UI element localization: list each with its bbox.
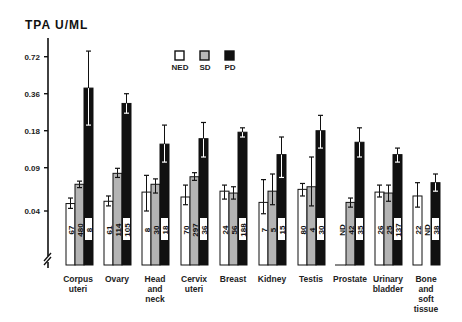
bar-groups: 6748086111410583018702973624561887515804…	[66, 51, 441, 265]
n-count-label: 70	[182, 225, 191, 234]
svg-text:Testis: Testis	[299, 274, 323, 284]
bar-group: 83018	[142, 125, 170, 265]
n-count-label: 7	[260, 227, 269, 232]
bar-pd	[122, 103, 131, 265]
legend: NEDSDPD	[172, 51, 236, 72]
n-count-label: 15	[278, 225, 287, 234]
n-count-label: 67	[67, 225, 76, 234]
n-count-label: 4	[308, 227, 317, 232]
svg-text:uteri: uteri	[69, 284, 87, 294]
svg-text:bladder: bladder	[373, 284, 404, 294]
bar-pd	[316, 131, 325, 265]
bar-pd	[199, 139, 208, 265]
n-count-label: 480	[76, 223, 85, 237]
bar-group: ND4235	[335, 128, 365, 265]
svg-text:NED: NED	[172, 63, 189, 72]
svg-text:and: and	[418, 284, 433, 294]
category-label: Testis	[299, 274, 323, 284]
bar-sd	[113, 173, 122, 265]
bar-group: 7029736	[181, 122, 209, 265]
bar-pd	[238, 132, 247, 265]
n-count-label: 30	[317, 225, 326, 234]
y-axis: 0.040.090.180.360.72	[24, 38, 51, 268]
bar-pd	[355, 142, 364, 265]
svg-text:uteri: uteri	[185, 284, 203, 294]
n-count-label: 22	[414, 225, 423, 234]
y-tick-label: 0.04	[24, 207, 40, 216]
legend-item-pd: PD	[224, 51, 235, 72]
n-count-label: 25	[385, 225, 394, 234]
category-label: Cervixuteri	[181, 274, 207, 294]
category-label: Kidney	[258, 274, 287, 284]
svg-text:Prostate: Prostate	[333, 274, 367, 284]
n-count-label: 35	[356, 225, 365, 234]
bar-sd	[151, 184, 160, 265]
category-label: Corpusuteri	[63, 274, 93, 294]
n-count-label: 114	[114, 223, 123, 236]
y-tick-label: 0.09	[24, 164, 40, 173]
bar-group: 80430	[298, 115, 326, 265]
category-label: Ovary	[105, 274, 129, 284]
svg-text:Corpus: Corpus	[63, 274, 93, 284]
bar-group: 2456188	[220, 128, 248, 265]
svg-text:Bone: Bone	[415, 274, 437, 284]
n-count-label: 5	[269, 227, 278, 232]
svg-text:Kidney: Kidney	[258, 274, 287, 284]
n-count-label: 105	[123, 223, 132, 237]
bar-group: 674808	[66, 51, 94, 265]
n-count-label: 36	[200, 225, 209, 234]
category-label: Prostate	[333, 274, 367, 284]
category-label: Breast	[220, 274, 247, 284]
svg-text:soft: soft	[418, 294, 434, 304]
svg-text:tissue: tissue	[414, 304, 439, 314]
svg-text:neck: neck	[145, 294, 165, 304]
n-count-label: 30	[152, 225, 161, 234]
bar-group: 61114105	[104, 94, 132, 265]
bar-sd	[190, 177, 199, 265]
n-count-label: 56	[230, 225, 239, 234]
n-count-label: 42	[347, 225, 356, 234]
svg-text:Breast: Breast	[220, 274, 247, 284]
legend-item-sd: SD	[199, 51, 210, 72]
bar-group: 7515	[259, 137, 287, 265]
n-count-label: ND	[423, 224, 432, 236]
category-label: Boneandsofttissue	[414, 274, 439, 314]
svg-text:Head: Head	[145, 274, 166, 284]
y-tick-label: 0.36	[24, 90, 40, 99]
category-label: Headandneck	[145, 274, 166, 304]
bar-group: 22ND38	[413, 174, 441, 265]
svg-text:Cervix: Cervix	[181, 274, 207, 284]
svg-text:SD: SD	[199, 63, 210, 72]
bar-chart: 0.040.090.180.360.72 NEDSDPD 67480861114…	[0, 0, 462, 322]
category-label: Urinarybladder	[373, 274, 404, 294]
n-count-label: 24	[221, 225, 230, 234]
n-count-label: 297	[191, 223, 200, 237]
n-count-label: 8	[85, 227, 94, 232]
bar-group: 2625137	[375, 148, 403, 265]
n-count-label: 61	[105, 225, 114, 234]
svg-text:PD: PD	[224, 63, 235, 72]
n-count-label: ND	[338, 224, 347, 236]
n-count-label: 80	[299, 225, 308, 234]
category-labels: CorpusuteriOvaryHeadandneckCervixuteriBr…	[63, 274, 438, 314]
legend-item-ned: NED	[172, 51, 189, 72]
y-tick-label: 0.18	[24, 127, 40, 136]
y-tick-label: 0.72	[24, 53, 40, 62]
n-count-label: 26	[376, 225, 385, 234]
svg-text:and: and	[147, 284, 162, 294]
n-count-label: 18	[161, 225, 170, 234]
svg-text:Ovary: Ovary	[105, 274, 129, 284]
bar-pd	[393, 155, 402, 265]
n-count-label: 137	[394, 223, 403, 237]
n-count-label: 8	[143, 227, 152, 232]
n-count-label: 188	[239, 223, 248, 237]
svg-text:Urinary: Urinary	[373, 274, 403, 284]
n-count-label: 38	[432, 225, 441, 234]
